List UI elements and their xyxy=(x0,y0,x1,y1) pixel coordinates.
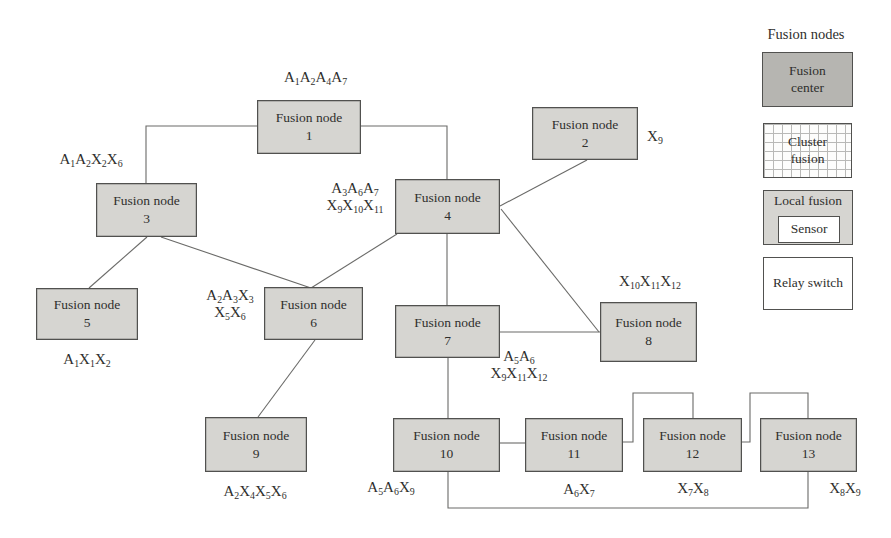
annotation-node5: A1X1X2 xyxy=(54,351,120,368)
node-title: Fusion node xyxy=(615,314,681,332)
annotation-node3: A1A2X2X6 xyxy=(44,151,138,168)
annotation-line: X5X6 xyxy=(197,304,263,321)
node-number: 13 xyxy=(802,445,816,463)
node-title: Fusion node xyxy=(541,427,607,445)
annotation-node4: A3A6A7 X9X10X11 xyxy=(318,180,392,214)
annotation-node7: A5A6 X9X11X12 xyxy=(477,348,561,382)
annotation-node2: X9 xyxy=(643,128,667,145)
edge-node3-node6 xyxy=(161,237,311,288)
annotation-node6: A2A3X3 X5X6 xyxy=(197,287,263,321)
node-number: 9 xyxy=(253,445,260,463)
node-number: 1 xyxy=(306,127,313,145)
fusion-node-9: Fusion node 9 xyxy=(205,417,307,472)
legend-label: Local fusion xyxy=(774,193,842,210)
fusion-node-8: Fusion node 8 xyxy=(600,302,697,362)
legend-label: Cluster xyxy=(788,134,827,151)
edge-node1-node3 xyxy=(146,126,257,183)
node-title: Fusion node xyxy=(276,109,342,127)
node-number: 5 xyxy=(84,314,91,332)
annotation-line: X9X10X11 xyxy=(318,197,392,214)
legend-sensor-box: Sensor xyxy=(778,216,840,243)
edge-node6-node9 xyxy=(258,340,315,417)
node-number: 4 xyxy=(444,207,451,225)
node-title: Fusion node xyxy=(113,192,179,210)
annotation-line: X9X11X12 xyxy=(477,365,561,382)
node-number: 3 xyxy=(143,210,150,228)
edge-node13-node10-loop xyxy=(448,472,808,508)
annotation-node12: X7X8 xyxy=(671,480,715,497)
node-number: 6 xyxy=(310,314,317,332)
fusion-node-11: Fusion node 11 xyxy=(525,418,623,472)
annotation-node11: A6X7 xyxy=(558,481,600,498)
node-title: Fusion node xyxy=(552,116,618,134)
edge-node4-node2 xyxy=(500,160,587,206)
annotation-line: A2A3X3 xyxy=(197,287,263,304)
edge-node4-node6 xyxy=(311,234,397,288)
fusion-node-1: Fusion node 1 xyxy=(257,100,361,154)
fusion-node-12: Fusion node 12 xyxy=(643,418,742,472)
node-number: 10 xyxy=(440,445,454,463)
fusion-node-6: Fusion node 6 xyxy=(264,287,363,340)
annotation-node1: A1A2A4A7 xyxy=(268,69,363,86)
node-title: Fusion node xyxy=(413,427,479,445)
annotation-node9: A2X4X5X6 xyxy=(212,483,298,500)
annotation-node13: X8X9 xyxy=(822,480,868,497)
fusion-network-diagram: Fusion node 1 Fusion node 2 Fusion node … xyxy=(0,0,891,538)
fusion-node-2: Fusion node 2 xyxy=(532,107,638,160)
legend-fusion-center: Fusion center xyxy=(762,52,853,107)
node-title: Fusion node xyxy=(280,296,346,314)
legend-label: Fusion xyxy=(789,63,826,80)
node-title: Fusion node xyxy=(775,427,841,445)
node-number: 12 xyxy=(686,445,700,463)
node-title: Fusion node xyxy=(659,427,725,445)
legend-label: Sensor xyxy=(791,221,828,238)
annotation-line: A5A6 xyxy=(477,348,561,365)
edge-node3-node5 xyxy=(89,237,147,288)
legend-cluster-fusion: Cluster fusion xyxy=(763,123,852,178)
legend-relay-switch: Relay switch xyxy=(763,257,853,310)
legend-label: fusion xyxy=(791,151,825,168)
node-number: 11 xyxy=(568,445,581,463)
node-title: Fusion node xyxy=(414,189,480,207)
edge-node1-node4 xyxy=(361,126,447,179)
legend-label: Relay switch xyxy=(773,275,843,292)
annotation-node10: A5A6X9 xyxy=(362,479,420,496)
legend-local-fusion: Local fusion Sensor xyxy=(763,190,853,245)
annotation-line: A3A6A7 xyxy=(318,180,392,197)
legend-label: center xyxy=(791,80,824,97)
edge-node4-node8 xyxy=(501,209,599,332)
node-number: 2 xyxy=(582,134,589,152)
fusion-node-13: Fusion node 13 xyxy=(760,418,857,472)
fusion-node-10: Fusion node 10 xyxy=(393,418,500,472)
node-title: Fusion node xyxy=(414,314,480,332)
node-title: Fusion node xyxy=(54,296,120,314)
annotation-node8: X10X11X12 xyxy=(606,273,694,290)
node-number: 7 xyxy=(444,332,451,350)
fusion-node-4: Fusion node 4 xyxy=(395,179,500,234)
fusion-node-5: Fusion node 5 xyxy=(36,288,138,340)
legend-title: Fusion nodes xyxy=(756,26,856,43)
node-number: 8 xyxy=(645,332,652,350)
node-title: Fusion node xyxy=(223,427,289,445)
fusion-node-3: Fusion node 3 xyxy=(96,183,197,237)
